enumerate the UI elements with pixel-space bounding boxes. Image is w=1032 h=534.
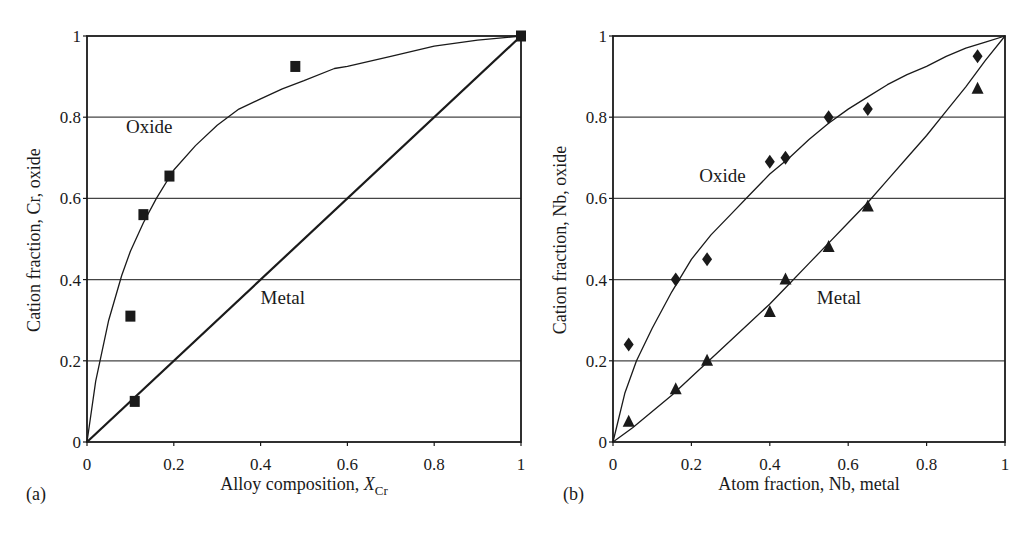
x-axis-label: Atom fraction, Nb, metal bbox=[718, 474, 899, 494]
square-marker bbox=[138, 209, 148, 220]
diamond-marker bbox=[624, 338, 634, 352]
triangle-marker bbox=[764, 305, 776, 317]
x-axis-label: Alloy composition, XCr bbox=[220, 474, 388, 498]
panel-a-chart: 00.20.40.60.8100.20.40.60.81OxideMetalCa… bbox=[24, 27, 526, 505]
plot-frame bbox=[613, 36, 1005, 442]
square-marker bbox=[164, 171, 174, 182]
triangle-marker bbox=[823, 240, 835, 252]
y-tick-label: 0.2 bbox=[60, 352, 81, 371]
x-tick-label: 0.8 bbox=[424, 455, 445, 474]
panel-label: (a) bbox=[26, 484, 46, 505]
x-tick-label: 0.6 bbox=[838, 455, 859, 474]
panel-label: (b) bbox=[563, 484, 584, 505]
triangle-marker bbox=[623, 415, 635, 427]
y-tick-label: 1 bbox=[73, 27, 82, 46]
diamond-marker bbox=[973, 49, 983, 63]
x-tick-label: 0 bbox=[609, 455, 618, 474]
diamond-marker bbox=[863, 102, 873, 116]
diamond-marker bbox=[780, 151, 790, 165]
triangle-marker bbox=[779, 273, 791, 285]
x-tick-label: 0.2 bbox=[681, 455, 702, 474]
y-tick-label: 0.8 bbox=[586, 108, 607, 127]
fit-curve bbox=[613, 36, 1005, 442]
square-marker bbox=[290, 61, 300, 72]
y-tick-label: 0.8 bbox=[60, 108, 81, 127]
y-axis-label: Cation fraction, Cr, oxide bbox=[24, 148, 44, 332]
diamond-marker bbox=[765, 155, 775, 169]
y-tick-label: 1 bbox=[599, 27, 608, 46]
x-tick-label: 0.6 bbox=[337, 455, 358, 474]
metal-line bbox=[87, 36, 521, 442]
figure: 00.20.40.60.8100.20.40.60.81OxideMetalCa… bbox=[0, 0, 1032, 534]
diamond-marker bbox=[824, 110, 834, 124]
fit-curve bbox=[613, 36, 1005, 442]
y-tick-label: 0.4 bbox=[586, 271, 608, 290]
x-tick-label: 0 bbox=[83, 455, 92, 474]
triangle-marker bbox=[701, 354, 713, 366]
triangle-marker bbox=[862, 200, 874, 212]
x-tick-label: 0.2 bbox=[163, 455, 184, 474]
square-marker bbox=[516, 31, 526, 42]
y-tick-label: 0 bbox=[73, 433, 82, 452]
x-tick-label: 0.4 bbox=[250, 455, 272, 474]
triangle-marker bbox=[972, 82, 984, 94]
chart-canvas: 00.20.40.60.8100.20.40.60.81OxideMetalCa… bbox=[0, 0, 1032, 534]
x-tick-label: 1 bbox=[517, 455, 526, 474]
y-tick-label: 0.6 bbox=[60, 189, 81, 208]
annotation-metal: Metal bbox=[261, 287, 305, 308]
x-tick-label: 1 bbox=[1001, 455, 1010, 474]
square-marker bbox=[125, 311, 135, 322]
annotation-oxide: Oxide bbox=[699, 165, 745, 186]
x-tick-label: 0.4 bbox=[759, 455, 781, 474]
square-marker bbox=[130, 396, 140, 407]
y-tick-label: 0.4 bbox=[60, 271, 82, 290]
diamond-marker bbox=[671, 273, 681, 287]
annotation-oxide: Oxide bbox=[126, 116, 172, 137]
diamond-marker bbox=[702, 252, 712, 266]
y-axis-label: Cation fraction, Nb, oxide bbox=[550, 146, 570, 334]
y-tick-label: 0 bbox=[599, 433, 608, 452]
panel-b-chart: 00.20.40.60.8100.20.40.60.81OxideMetalCa… bbox=[550, 27, 1009, 505]
y-tick-label: 0.6 bbox=[586, 189, 607, 208]
x-tick-label: 0.8 bbox=[916, 455, 937, 474]
annotation-metal: Metal bbox=[817, 287, 861, 308]
y-tick-label: 0.2 bbox=[586, 352, 607, 371]
